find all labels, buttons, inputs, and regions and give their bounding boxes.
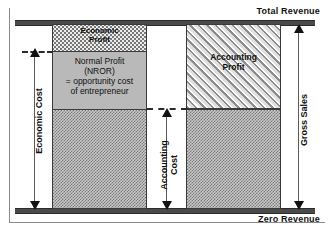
economic-cost-label: Economic Cost: [35, 75, 45, 167]
frame-left-border: [9, 8, 10, 223]
economic-cost-base-box: [52, 109, 147, 209]
economic-cost-arrow-up-icon: [30, 48, 40, 57]
economic-cost-arrow-down-icon: [30, 201, 40, 210]
total-revenue-label: Total Revenue: [257, 6, 320, 16]
gross-sales-label: Gross Sales: [300, 74, 310, 166]
accounting-cost-arrow-down-icon: [162, 201, 172, 210]
economic-profit-box: [52, 24, 147, 52]
diagram-canvas: Total Revenue Zero Revenue Economic Prof…: [0, 0, 333, 232]
accounting-profit-box: [186, 24, 281, 109]
accounting-cost-arrow-up-icon: [162, 108, 172, 117]
normal-profit-box: [52, 51, 147, 110]
gross-sales-arrow-up-icon: [294, 24, 304, 33]
zero-revenue-label: Zero Revenue: [258, 214, 320, 224]
gross-sales-arrow-down-icon: [294, 201, 304, 210]
accounting-cost-base-box: [186, 109, 281, 209]
accounting-cost-label: Accounting Cost: [160, 129, 180, 201]
